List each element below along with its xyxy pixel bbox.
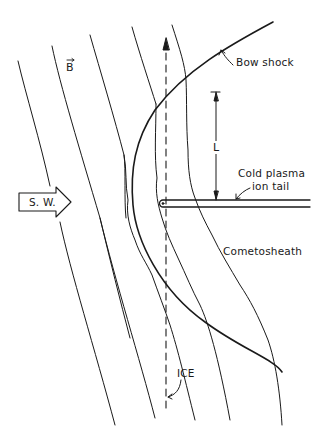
b-field-label: B (66, 62, 74, 73)
field-line-lower-2 (100, 218, 155, 418)
field-line-1 (18, 61, 50, 186)
field-line-4 (132, 27, 156, 104)
field-line-lower-1 (60, 222, 115, 425)
ice-label: ICE (177, 368, 195, 379)
ion-tail-label-line1: Cold plasma (238, 168, 305, 179)
cometosheath-label: Cometosheath (223, 246, 302, 257)
length-scale-arrow-down (214, 191, 218, 199)
ion-tail-label-line2: ion tail (252, 181, 289, 192)
comet-nucleus (162, 203, 164, 205)
length-scale-arrow-up (214, 93, 218, 101)
field-line-3 (90, 35, 126, 218)
field-line-2 (52, 46, 130, 338)
ice-pointer (168, 380, 181, 397)
ion-tail (160, 200, 311, 207)
ice-trajectory-arrowhead (163, 38, 169, 50)
solar-wind-label: S. W. (29, 197, 56, 208)
draped-field-line-outer (172, 25, 282, 425)
ion-tail-pointer (236, 188, 250, 199)
draped-field-line-inner (124, 155, 195, 420)
bow-shock-pointer (221, 50, 233, 65)
length-scale-label: L (213, 141, 219, 154)
bow-shock-label: Bow shock (236, 57, 294, 68)
